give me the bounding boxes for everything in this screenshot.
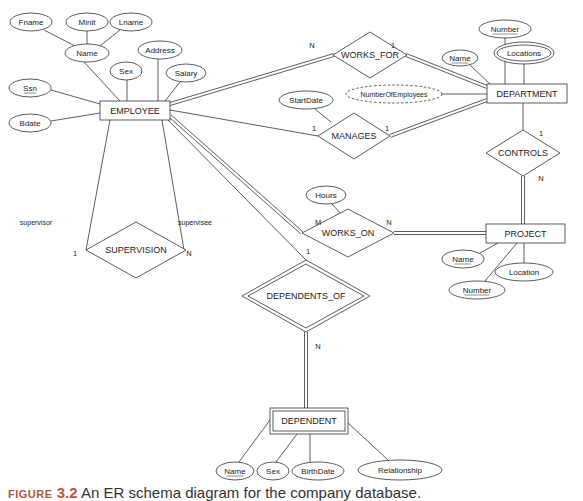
line-emp-supervisee: [162, 120, 184, 250]
line-lname: [100, 30, 120, 46]
cardinality-label: N: [315, 342, 320, 351]
line-emp-supervisor: [86, 120, 110, 250]
line-manages-dept: [389, 99, 487, 138]
relationship-dependents_of: DEPENDENTS_OF: [242, 260, 370, 332]
line-controls-proj: [522, 176, 525, 224]
line-emp-manages: [170, 110, 318, 136]
entity-label: PROJECT: [504, 229, 547, 239]
attribute-birthdate: BirthDate: [292, 462, 344, 480]
cardinality-label: M: [315, 218, 321, 227]
figure-label: FIGURE: [8, 488, 53, 500]
line-ssn: [51, 90, 100, 104]
attribute-dep_name: Name: [216, 462, 254, 480]
attribute-label: Locations: [507, 49, 541, 58]
role-label-supervisee: supervisee: [178, 219, 212, 227]
attribute-locations: Locations: [494, 42, 554, 64]
role-label-supervisor: supervisor: [20, 219, 53, 227]
attribute-num_employees: NumberOfEmployees: [346, 85, 442, 103]
attribute-startdate: StartDate: [279, 91, 333, 109]
attribute-lname: Lname: [110, 13, 152, 31]
attribute-address: Address: [138, 41, 182, 59]
attribute-relationship: Relationship: [358, 460, 442, 480]
caption-text: An ER schema diagram for the company dat…: [81, 484, 421, 501]
attribute-bdate: Bdate: [9, 114, 51, 132]
attribute-salary: Salary: [166, 64, 206, 82]
line-bdate: [51, 113, 100, 121]
attribute-label: Name: [224, 467, 246, 476]
cardinality-label: 1: [312, 124, 316, 133]
entity-label: DEPARTMENT: [496, 89, 558, 99]
cardinality-label: 1: [306, 247, 310, 256]
cardinality-label: 1: [539, 129, 543, 138]
attribute-label: Salary: [175, 69, 198, 78]
relationship-label: CONTROLS: [498, 148, 548, 158]
attribute-label: Name: [76, 49, 98, 58]
attribute-label: Bdate: [20, 119, 41, 128]
cardinality-label: N: [309, 41, 314, 50]
line-dept_name: [470, 65, 490, 84]
attribute-label: StartDate: [289, 96, 323, 105]
relationship-label: WORKS_FOR: [341, 50, 400, 60]
cardinality-label: 1: [385, 124, 389, 133]
entity-label: EMPLOYEE: [110, 106, 160, 116]
relationship-label: WORKS_ON: [322, 228, 375, 238]
line-fname: [44, 30, 75, 46]
relationship-supervision: SUPERVISION: [86, 222, 186, 278]
attribute-fname: Fname: [10, 13, 52, 31]
relationship-works_for: WORKS_FOR: [333, 32, 407, 78]
relationship-label: DEPENDENTS_OF: [266, 291, 346, 301]
attribute-label: Number: [463, 286, 492, 295]
cardinality-label: N: [386, 218, 391, 227]
line-emp-dependentsof: [168, 120, 306, 260]
relationship-label: MANAGES: [331, 131, 376, 141]
cardinality-label: N: [538, 174, 543, 183]
entity-label: DEPENDENT: [281, 416, 337, 426]
relationship-works_on: WORKS_ON: [302, 209, 394, 257]
relationship-controls: CONTROLS: [486, 130, 560, 176]
attribute-proj_name: Name: [442, 250, 484, 268]
attribute-label: Ssn: [23, 84, 37, 93]
attribute-label: BirthDate: [301, 467, 335, 476]
line-startdate: [315, 109, 331, 122]
attribute-dept_name: Name: [442, 50, 478, 66]
line-salary: [165, 82, 180, 101]
line-emp-workson: [169, 115, 303, 234]
attribute-label: Hours: [315, 191, 336, 200]
relationship-label: SUPERVISION: [105, 245, 166, 255]
attribute-proj_number: Number: [449, 281, 505, 299]
attribute-sex_emp: Sex: [110, 62, 142, 80]
cardinality-label: 1: [391, 41, 395, 50]
figure-caption: FIGURE 3.2 An ER schema diagram for the …: [8, 484, 421, 501]
line-hours: [332, 204, 341, 214]
attribute-label: NumberOfEmployees: [361, 91, 428, 99]
attribute-label: Sex: [266, 467, 280, 476]
attribute-label: Fname: [19, 18, 44, 27]
attribute-label: Number: [491, 25, 520, 34]
attribute-location: Location: [495, 263, 553, 281]
attribute-name_emp: Name: [65, 44, 109, 62]
entity-department: DEPARTMENT: [487, 84, 567, 103]
line-workson-proj: [394, 232, 486, 235]
attribute-dep_sex: Sex: [257, 462, 289, 480]
attribute-hours: Hours: [306, 186, 346, 204]
attribute-label: Address: [145, 46, 174, 55]
line-relationship: [348, 423, 388, 460]
line-proj_name: [480, 243, 498, 253]
line-dependentsof-dependent: [305, 332, 308, 408]
entity-employee: EMPLOYEE: [100, 101, 170, 120]
figure-number: 3.2: [57, 484, 78, 501]
attribute-label: Relationship: [378, 466, 423, 475]
entity-project: PROJECT: [486, 224, 565, 243]
line-dep_name: [239, 420, 270, 462]
cardinality-label: 1: [73, 249, 77, 258]
attribute-label: Name: [449, 54, 471, 63]
attribute-label: Minit: [79, 18, 97, 27]
attribute-label: Name: [452, 255, 474, 264]
attribute-dept_number: Number: [479, 20, 531, 38]
attribute-label: Location: [509, 268, 539, 277]
role-labels: supervisorsupervisee: [20, 219, 212, 227]
line-dep_sex: [276, 434, 297, 462]
attribute-minit: Minit: [66, 13, 108, 31]
attribute-ssn: Ssn: [9, 79, 51, 97]
